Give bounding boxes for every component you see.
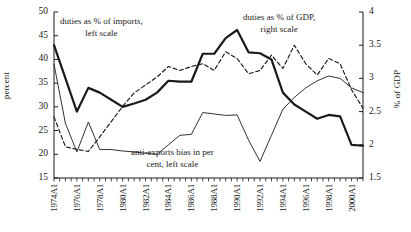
y-axis-left-tick-label: 25 <box>20 125 48 135</box>
chart-axes <box>54 12 363 182</box>
x-axis-tick-label: 2000A1 <box>347 184 357 212</box>
y-axis-right-tick-label: 2.5 <box>369 106 399 116</box>
y-axis-right-tick-label: 3 <box>369 72 399 82</box>
y-axis-right-tick-label: 1.5 <box>369 172 399 182</box>
series-line-2 <box>54 64 363 161</box>
x-axis-tick-label: 1980A1 <box>118 184 128 212</box>
x-axis-tick-label: 1974A1 <box>49 184 59 212</box>
x-axis-tick-label: 1990A1 <box>232 184 242 212</box>
x-axis-tick-label: 1998A1 <box>324 184 334 212</box>
x-axis-tick-label: 1992A1 <box>255 184 265 212</box>
chart-series-layer <box>54 30 363 161</box>
y-axis-left-tick-label: 15 <box>20 172 48 182</box>
y-axis-left-tick-label: 20 <box>20 148 48 158</box>
x-axis-tick-label: 1988A1 <box>209 184 219 212</box>
x-axis-tick-label: 1978A1 <box>95 184 105 212</box>
x-axis-tick-label: 1994A1 <box>278 184 288 212</box>
x-axis-tick-label: 1982A1 <box>141 184 151 212</box>
chart-container: percent % of GDP duties as % of imports,… <box>0 0 411 232</box>
y-axis-left-tick-label: 40 <box>20 53 48 63</box>
x-axis-tick-label: 1996A1 <box>301 184 311 212</box>
y-axis-left-tick-label: 35 <box>20 77 48 87</box>
y-axis-left-tick-label: 30 <box>20 101 48 111</box>
y-axis-right-tick-label: 4 <box>369 6 399 16</box>
y-axis-left-tick-label: 50 <box>20 6 48 16</box>
series-line-1 <box>54 45 363 151</box>
x-axis-tick-label: 1986A1 <box>186 184 196 212</box>
x-axis-tick-label: 1984A1 <box>163 184 173 212</box>
y-axis-left-tick-label: 45 <box>20 30 48 40</box>
y-axis-right-tick-label: 3.5 <box>369 39 399 49</box>
x-axis-tick-label: 1976A1 <box>72 184 82 212</box>
series-line-0 <box>54 30 363 146</box>
y-axis-right-tick-label: 2 <box>369 139 399 149</box>
